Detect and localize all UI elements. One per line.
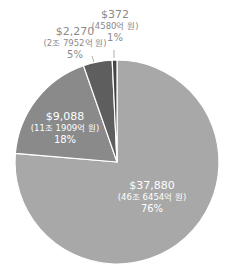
slice-value: $9,088 — [20, 110, 110, 123]
slice-krw: (46조 6454억 원) — [102, 192, 202, 203]
pie-slices — [15, 60, 219, 264]
slice-value: $37,880 — [102, 179, 202, 192]
slice-percent: 5% — [35, 49, 115, 61]
slice-percent: 76% — [102, 203, 202, 215]
slice-label-18pct: $9,088 (11조 1909억 원) 18% — [20, 110, 110, 146]
slice-value: $372 — [85, 8, 145, 21]
slice-percent: 18% — [20, 134, 110, 146]
slice-label-1pct: $372 (4580억 원) 1% — [85, 8, 145, 44]
slice-percent: 1% — [85, 32, 145, 44]
slice-label-76pct: $37,880 (46조 6454억 원) 76% — [102, 179, 202, 215]
slice-krw: (11조 1909억 원) — [20, 123, 110, 134]
slice-krw: (4580억 원) — [85, 21, 145, 32]
